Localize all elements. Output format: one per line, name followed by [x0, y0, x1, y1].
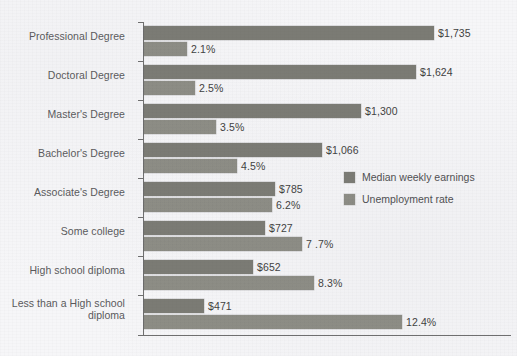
bar-median-weekly-earnings[interactable]: $1,624 [144, 65, 453, 79]
bar-rect [144, 221, 265, 235]
legend-item-label: Unemployment rate [362, 193, 454, 205]
bar-value-label: 3.5% [220, 121, 244, 133]
bar-rect [144, 159, 237, 173]
bar-median-weekly-earnings[interactable]: $727 [144, 221, 293, 235]
bar-median-weekly-earnings[interactable]: $652 [144, 260, 281, 274]
bar-rect [144, 104, 361, 118]
bar-rect [144, 299, 204, 313]
bar-rect [144, 276, 314, 290]
bar-median-weekly-earnings[interactable]: $1,735 [144, 26, 471, 40]
y-axis-tick [138, 139, 143, 140]
category-label: Some college [0, 225, 125, 237]
legend-item-median-weekly-earnings[interactable]: Median weekly earnings [344, 171, 475, 183]
category-label: Associate's Degree [0, 186, 125, 198]
bar-unemployment-rate[interactable]: 7 .7% [144, 237, 333, 251]
bar-rect [144, 237, 302, 251]
bar-value-label: 12.4% [406, 316, 436, 328]
bar-value-label: 8.3% [318, 277, 342, 289]
bar-rect [144, 42, 187, 56]
y-axis-tick [138, 100, 143, 101]
bar-value-label: $1,624 [420, 66, 453, 78]
category-label: Master's Degree [0, 108, 125, 120]
bar-rect [144, 198, 272, 212]
bar-rect [144, 81, 195, 95]
category-label: Professional Degree [0, 30, 125, 42]
category-label: Less than a High school diploma [0, 297, 125, 321]
bar-value-label: 2.1% [191, 43, 215, 55]
bar-median-weekly-earnings[interactable]: $471 [144, 299, 232, 313]
bar-rect [144, 260, 253, 274]
legend: Median weekly earnings Unemployment rate [344, 171, 475, 215]
legend-item-unemployment-rate[interactable]: Unemployment rate [344, 193, 475, 205]
bar-unemployment-rate[interactable]: 6.2% [144, 198, 300, 212]
bar-median-weekly-earnings[interactable]: $785 [144, 182, 303, 196]
y-axis-tick [138, 335, 143, 336]
bar-rect [144, 315, 402, 329]
x-axis-line [143, 335, 511, 336]
category-label: Bachelor's Degree [0, 147, 125, 159]
category-label: High school diploma [0, 264, 125, 276]
bar-rect [144, 120, 216, 134]
legend-swatch-icon [344, 172, 355, 183]
y-axis-tick [138, 61, 143, 62]
bar-unemployment-rate[interactable]: 3.5% [144, 120, 244, 134]
legend-swatch-icon [344, 194, 355, 205]
bar-value-label: 4.5% [241, 160, 265, 172]
bar-value-label: $785 [279, 183, 303, 195]
y-axis-tick [138, 295, 143, 296]
bar-median-weekly-earnings[interactable]: $1,066 [144, 143, 359, 157]
bar-value-label: $1,735 [438, 27, 471, 39]
bar-value-label: $727 [269, 222, 293, 234]
bar-unemployment-rate[interactable]: 2.5% [144, 81, 223, 95]
legend-item-label: Median weekly earnings [362, 171, 475, 183]
education-earnings-unemployment-bar-chart: Professional Degree $1,735 2.1% Doctoral… [0, 0, 517, 356]
bar-rect [144, 182, 275, 196]
bar-value-label: $1,066 [326, 144, 359, 156]
bar-rect [144, 143, 322, 157]
bar-unemployment-rate[interactable]: 2.1% [144, 42, 215, 56]
bar-value-label: 6.2% [276, 199, 300, 211]
bar-value-label: $652 [257, 261, 281, 273]
bar-rect [144, 26, 434, 40]
bar-unemployment-rate[interactable]: 8.3% [144, 276, 342, 290]
bar-unemployment-rate[interactable]: 12.4% [144, 315, 436, 329]
y-axis-tick [138, 178, 143, 179]
bar-median-weekly-earnings[interactable]: $1,300 [144, 104, 398, 118]
y-axis-tick [138, 22, 143, 23]
bar-value-label: 7 .7% [306, 238, 333, 250]
bar-value-label: 2.5% [199, 82, 223, 94]
bar-rect [144, 65, 416, 79]
category-label: Doctoral Degree [0, 69, 125, 81]
bar-unemployment-rate[interactable]: 4.5% [144, 159, 265, 173]
y-axis-tick [138, 256, 143, 257]
y-axis-tick [138, 217, 143, 218]
bar-value-label: $471 [208, 300, 232, 312]
bar-value-label: $1,300 [365, 105, 398, 117]
